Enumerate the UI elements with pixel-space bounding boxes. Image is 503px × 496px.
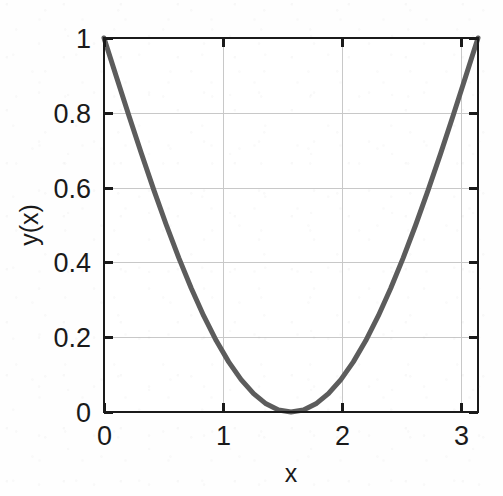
y-tick-label: 0.2: [53, 323, 91, 353]
y-axis-tick-labels: 00.20.40.60.81: [53, 24, 91, 428]
x-tick-label: 1: [216, 421, 231, 451]
y-tick-label: 0: [76, 398, 91, 428]
y-tick-label: 0.8: [53, 99, 91, 129]
x-tick-label: 0: [97, 421, 112, 451]
y-tick-label: 0.6: [53, 174, 91, 204]
x-tick-label: 3: [454, 421, 469, 451]
x-axis-tick-labels: 0123: [97, 421, 469, 451]
line-chart: 00.20.40.60.81 0123 x y(x): [0, 0, 503, 496]
y-axis-title: y(x): [15, 204, 43, 246]
figure-canvas: 00.20.40.60.81 0123 x y(x): [0, 0, 503, 496]
x-axis-title: x: [285, 459, 298, 487]
y-tick-label: 0.4: [53, 248, 91, 278]
plot-area-background: [104, 38, 478, 412]
x-tick-label: 2: [335, 421, 350, 451]
y-tick-label: 1: [76, 24, 91, 54]
